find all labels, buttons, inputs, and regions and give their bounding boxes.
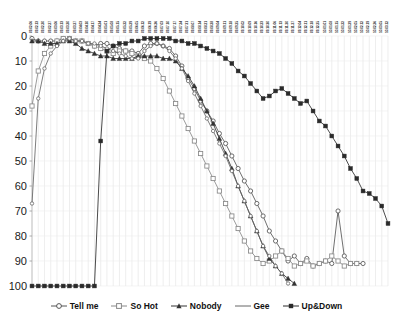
x-tick-label: 09.11.20 xyxy=(285,21,289,33)
x-tick-label: 09.02.13 xyxy=(35,21,39,33)
y-tick-label: 60 xyxy=(15,180,27,192)
x-tick-label: 09.10.02 xyxy=(241,21,245,33)
data-series-layer xyxy=(30,36,390,288)
y-tick-label: 40 xyxy=(15,130,27,142)
x-tick-label: 09.03.20 xyxy=(66,21,70,33)
x-tick-label: 09.05.22 xyxy=(123,21,127,33)
y-tick-label: 70 xyxy=(15,205,27,217)
legend-label: Up&Down xyxy=(302,301,343,311)
x-tick-label: 09.11.27 xyxy=(291,21,295,33)
open-square-icon xyxy=(111,301,127,311)
legend-item-tell-me[interactable]: Tell me xyxy=(51,301,99,311)
x-tick-label: 09.05.01 xyxy=(104,21,108,33)
x-tick-label: 09.04.24 xyxy=(98,21,102,33)
x-tick-label: 09.06.05 xyxy=(135,21,139,33)
x-tick-label: 09.03.06 xyxy=(54,21,58,33)
x-tick-label: 09.04.03 xyxy=(79,21,83,33)
gridlines xyxy=(32,36,388,286)
x-tick-label: 09.05.29 xyxy=(129,21,133,33)
x-tick-label: 09.03.27 xyxy=(73,21,77,33)
x-tick-label: 09.09.18 xyxy=(229,21,233,33)
chart-plot-area: 0102030405060708090100 09.02.0609.02.130… xyxy=(0,0,393,320)
x-axis-labels: 09.02.0609.02.1309.02.2009.02.2709.03.06… xyxy=(29,21,389,33)
filled-square-icon xyxy=(283,301,299,311)
plain-line-icon xyxy=(235,301,251,311)
x-tick-label: 10.01.15 xyxy=(335,21,339,33)
legend-label: Tell me xyxy=(70,301,99,311)
x-tick-label: 09.12.25 xyxy=(316,21,320,33)
x-tick-label: 09.05.08 xyxy=(110,21,114,33)
legend-label: Gee xyxy=(254,301,270,311)
legend-item-so-hot[interactable]: So Hot xyxy=(111,301,157,311)
x-tick-label: 09.11.06 xyxy=(273,21,277,33)
x-tick-label: 09.12.11 xyxy=(304,21,308,33)
x-tick-label: 09.12.18 xyxy=(310,21,314,33)
x-tick-label: 10.01.22 xyxy=(341,21,345,33)
x-tick-label: 09.07.17 xyxy=(173,21,177,33)
legend-label: So Hot xyxy=(130,301,157,311)
y-tick-label: 90 xyxy=(15,255,27,267)
x-tick-label: 09.07.03 xyxy=(160,21,164,33)
open-circle-icon xyxy=(51,301,67,311)
x-tick-label: 09.12.04 xyxy=(298,21,302,33)
legend-item-gee[interactable]: Gee xyxy=(235,301,270,311)
x-tick-label: 09.06.12 xyxy=(141,21,145,33)
x-tick-label: 09.11.13 xyxy=(279,21,283,33)
y-tick-label: 30 xyxy=(15,105,27,117)
legend-item-up-down[interactable]: Up&Down xyxy=(283,301,343,311)
chart-legend: Tell meSo HotNobodyGeeUp&Down xyxy=(0,296,393,316)
x-tick-label: 09.05.15 xyxy=(116,21,120,33)
x-tick-label: 10.03.05 xyxy=(379,21,383,33)
filled-triangle-icon xyxy=(171,301,187,311)
x-tick-label: 10.01.29 xyxy=(348,21,352,33)
x-tick-label: 09.07.10 xyxy=(166,21,170,33)
x-tick-label: 10.01.08 xyxy=(329,21,333,33)
x-tick-label: 10.02.19 xyxy=(366,21,370,33)
x-tick-label: 09.02.20 xyxy=(41,21,45,33)
x-tick-label: 09.02.06 xyxy=(29,21,33,33)
x-tick-label: 09.06.26 xyxy=(154,21,158,33)
x-tick-label: 09.10.23 xyxy=(260,21,264,33)
x-tick-label: 09.08.21 xyxy=(204,21,208,33)
x-tick-label: 09.06.19 xyxy=(148,21,152,33)
y-tick-label: 50 xyxy=(15,155,27,167)
x-tick-label: 10.02.12 xyxy=(360,21,364,33)
rank-chart: 0102030405060708090100 09.02.0609.02.130… xyxy=(0,0,393,320)
x-tick-label: 09.10.09 xyxy=(248,21,252,33)
y-axis: 0102030405060708090100 xyxy=(9,30,32,292)
x-tick-label: 09.10.16 xyxy=(254,21,258,33)
x-tick-label: 09.07.24 xyxy=(179,21,183,33)
x-tick-label: 09.02.27 xyxy=(48,21,52,33)
series-tell-me xyxy=(30,36,365,268)
series-up-down xyxy=(30,37,390,288)
y-tick-label: 100 xyxy=(9,280,27,292)
x-tick-label: 09.10.30 xyxy=(266,21,270,33)
x-tick-label: 10.01.01 xyxy=(323,21,327,33)
y-tick-label: 0 xyxy=(21,30,27,42)
legend-item-nobody[interactable]: Nobody xyxy=(171,301,222,311)
x-tick-label: 09.04.10 xyxy=(85,21,89,33)
x-tick-label: 10.02.05 xyxy=(354,21,358,33)
x-tick-label: 09.08.14 xyxy=(198,21,202,33)
x-tick-label: 09.08.28 xyxy=(210,21,214,33)
x-tick-label: 09.09.25 xyxy=(235,21,239,33)
x-tick-label: 09.07.31 xyxy=(185,21,189,33)
y-tick-label: 10 xyxy=(15,55,27,67)
x-tick-label: 09.03.13 xyxy=(60,21,64,33)
x-tick-label: 09.08.07 xyxy=(191,21,195,33)
x-tick-label: 10.03.12 xyxy=(385,21,389,33)
x-tick-label: 09.09.04 xyxy=(216,21,220,33)
x-tick-label: 09.09.11 xyxy=(223,21,227,33)
x-tick-label: 10.02.26 xyxy=(373,21,377,33)
y-tick-label: 80 xyxy=(15,230,27,242)
x-tick-label: 09.04.17 xyxy=(91,21,95,33)
y-tick-label: 20 xyxy=(15,80,27,92)
legend-label: Nobody xyxy=(190,301,222,311)
